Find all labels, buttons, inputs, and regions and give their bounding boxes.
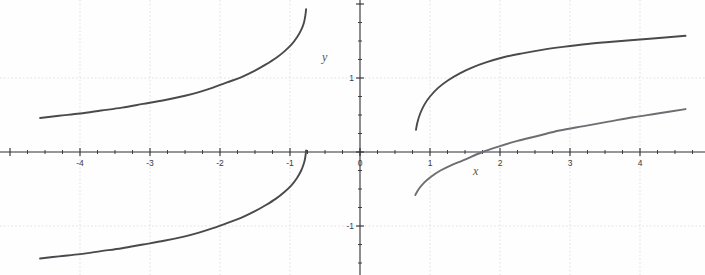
y-axis-variable-label: y [322,50,327,65]
x-tick-label: 4 [630,158,650,168]
x-tick-label: -4 [70,158,90,168]
gridlines-group [0,0,705,275]
x-axis-variable-label: x [473,164,478,179]
curve-left-upper-branch [40,9,306,118]
x-tick-label: -1 [280,158,300,168]
y-tick-label: 1 [336,73,354,83]
x-tick-label: 2 [490,158,510,168]
x-tick-label: -3 [140,158,160,168]
x-tick-label: -2 [210,158,230,168]
curves-group [40,9,685,258]
function-plot-svg [0,0,705,275]
x-tick-label: 0 [350,158,370,168]
plot-canvas: y x -4-3-2-101234-11 [0,0,705,275]
y-tick-label: -1 [336,221,354,231]
x-tick-label: 3 [560,158,580,168]
axes-group [0,0,705,275]
x-tick-label: 1 [420,158,440,168]
